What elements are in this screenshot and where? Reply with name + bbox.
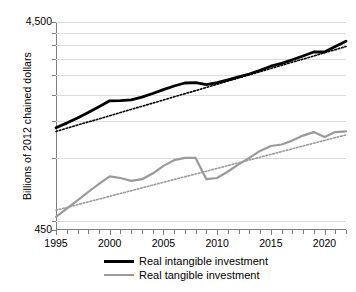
x-axis-tick: [110, 230, 111, 235]
x-axis-tick: [67, 230, 68, 234]
x-axis-tick: [249, 230, 250, 234]
x-axis-tick: [217, 230, 218, 235]
y-axis-label: 4,500: [0, 15, 52, 27]
x-axis-tick: [325, 230, 326, 235]
x-axis-tick: [346, 230, 347, 234]
y-axis-label: 450: [0, 223, 52, 235]
x-axis-label: 2020: [313, 237, 336, 249]
x-axis-label: 2010: [205, 237, 228, 249]
legend-label-tangible: Real tangible investment: [139, 269, 259, 281]
legend-swatch-intangible: [104, 260, 134, 263]
x-axis-tick: [163, 230, 164, 235]
x-axis-label: 1995: [44, 237, 67, 249]
x-axis-tick: [271, 230, 272, 235]
x-axis-tick: [196, 230, 197, 234]
x-axis-label: 2000: [98, 237, 121, 249]
x-axis-tick: [153, 230, 154, 234]
x-axis-tick: [174, 230, 175, 234]
chart-container: Billions of 2012 chained dollars 4,50045…: [0, 0, 356, 292]
x-axis-tick: [56, 230, 57, 235]
x-axis-tick: [185, 230, 186, 234]
chart-legend: Real intangible investment Real tangible…: [104, 255, 268, 281]
x-axis-tick: [88, 230, 89, 234]
x-axis-label: 2005: [152, 237, 175, 249]
data-series: [56, 22, 346, 230]
x-axis-tick: [142, 230, 143, 234]
plot-area: [56, 22, 346, 230]
x-axis-tick: [314, 230, 315, 234]
legend-item-tangible: Real tangible investment: [104, 269, 268, 281]
legend-item-intangible: Real intangible investment: [104, 255, 268, 267]
x-axis-tick: [335, 230, 336, 234]
x-axis-tick: [99, 230, 100, 234]
x-axis-tick: [228, 230, 229, 234]
x-axis-tick: [131, 230, 132, 234]
x-axis-label: 2015: [259, 237, 282, 249]
legend-label-intangible: Real intangible investment: [139, 255, 268, 267]
x-axis-tick: [120, 230, 121, 234]
line-tangible: [56, 131, 346, 217]
y-axis-title: Billions of 2012 chained dollars: [21, 11, 33, 241]
x-axis-tick: [292, 230, 293, 234]
x-axis-tick: [78, 230, 79, 234]
legend-swatch-tangible: [104, 274, 134, 276]
trendline-tangible: [56, 135, 346, 210]
trendline-intangible: [56, 47, 346, 132]
x-axis-tick: [206, 230, 207, 234]
x-axis-tick: [282, 230, 283, 234]
x-axis-tick: [239, 230, 240, 234]
x-axis-tick: [303, 230, 304, 234]
line-intangible: [56, 41, 346, 128]
x-axis-tick: [260, 230, 261, 234]
